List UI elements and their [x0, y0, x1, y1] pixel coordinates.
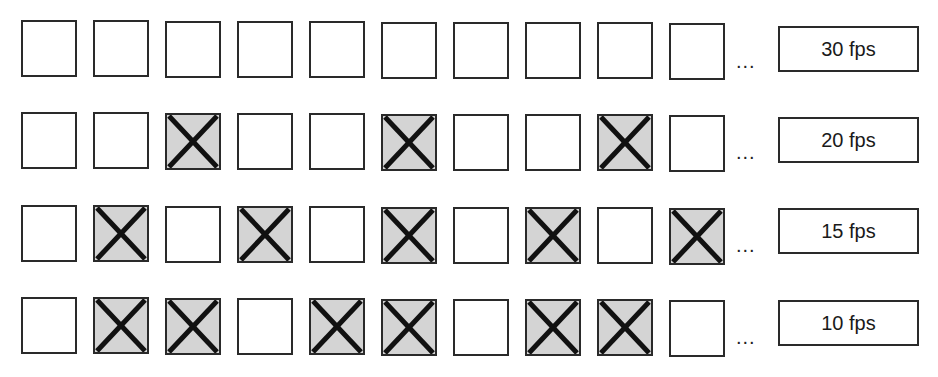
ellipsis: ... [736, 326, 756, 349]
frame [237, 298, 293, 355]
x-mark-icon [671, 210, 723, 263]
dropped-frame [381, 299, 437, 356]
frame [669, 300, 725, 357]
frame [21, 205, 77, 262]
x-mark-icon [95, 299, 147, 352]
x-mark-icon [527, 209, 579, 262]
fps-label: 10 fps [778, 300, 919, 346]
dropped-frame [237, 206, 293, 263]
x-mark-icon [95, 207, 147, 260]
dropped-frame [669, 208, 725, 265]
frame [453, 114, 509, 171]
frame [669, 115, 725, 172]
dropped-frame [381, 114, 437, 171]
fps-label: 15 fps [778, 208, 919, 254]
x-mark-icon [383, 209, 435, 262]
frame [309, 206, 365, 263]
frame [21, 112, 77, 169]
frame-row: ...10 fps [0, 0, 938, 60]
dropped-frame [597, 114, 653, 171]
dropped-frame [93, 297, 149, 354]
frame [597, 207, 653, 264]
dropped-frame [525, 207, 581, 264]
frame [525, 114, 581, 171]
x-mark-icon [167, 300, 219, 353]
frame [453, 207, 509, 264]
dropped-frame [165, 298, 221, 355]
x-mark-icon [239, 208, 291, 261]
x-mark-icon [167, 115, 219, 168]
dropped-frame [93, 205, 149, 262]
x-mark-icon [311, 300, 363, 353]
frame [237, 113, 293, 170]
x-mark-icon [527, 301, 579, 354]
frame [93, 112, 149, 169]
dropped-frame [381, 207, 437, 264]
x-mark-icon [383, 301, 435, 354]
dropped-frame [597, 299, 653, 356]
frame [453, 299, 509, 356]
x-mark-icon [599, 301, 651, 354]
dropped-frame [165, 113, 221, 170]
ellipsis: ... [736, 141, 756, 164]
ellipsis: ... [736, 234, 756, 257]
x-mark-icon [383, 116, 435, 169]
dropped-frame [309, 298, 365, 355]
frame [165, 206, 221, 263]
frame [21, 297, 77, 354]
frame [309, 113, 365, 170]
fps-label: 20 fps [778, 117, 919, 163]
dropped-frame [525, 299, 581, 356]
x-mark-icon [599, 116, 651, 169]
